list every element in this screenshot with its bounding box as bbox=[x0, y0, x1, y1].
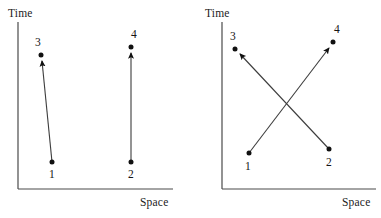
worldline-2-to-3 bbox=[240, 54, 329, 149]
left-panel-canvas bbox=[0, 0, 190, 218]
left-world-lines bbox=[42, 53, 131, 162]
spacetime-diagram-figure: Time Space 1 3 2 4 bbox=[0, 0, 381, 218]
y-axis-label: Time bbox=[8, 7, 33, 19]
y-axis-label: Time bbox=[205, 7, 230, 19]
worldline-1-to-4 bbox=[249, 48, 329, 153]
event-point-2 bbox=[129, 160, 134, 165]
right-panel-canvas bbox=[190, 0, 381, 218]
event-label-3: 3 bbox=[35, 36, 41, 48]
event-label-4: 4 bbox=[131, 28, 137, 40]
parallel-world-lines-diagram: Time Space 1 3 2 4 bbox=[0, 0, 190, 218]
event-point-3 bbox=[233, 47, 238, 52]
event-point-1 bbox=[247, 151, 252, 156]
x-axis-label: Space bbox=[140, 196, 168, 208]
event-label-4: 4 bbox=[334, 23, 340, 35]
event-point-3 bbox=[39, 53, 44, 58]
event-label-1: 1 bbox=[49, 168, 55, 180]
right-event-points bbox=[233, 40, 336, 156]
worldline-1-to-3 bbox=[42, 61, 52, 162]
event-label-1: 1 bbox=[245, 160, 251, 172]
event-point-4 bbox=[129, 45, 134, 50]
event-label-2: 2 bbox=[128, 168, 134, 180]
right-world-lines bbox=[240, 48, 329, 153]
event-point-4 bbox=[331, 40, 336, 45]
event-point-1 bbox=[50, 160, 55, 165]
event-label-3: 3 bbox=[230, 30, 236, 42]
event-label-2: 2 bbox=[326, 156, 332, 168]
left-axes bbox=[18, 22, 173, 189]
event-point-2 bbox=[327, 147, 332, 152]
left-event-points bbox=[39, 45, 134, 165]
crossing-world-lines-diagram: Time Space 1 3 2 4 bbox=[190, 0, 381, 218]
x-axis-label: Space bbox=[342, 196, 370, 208]
